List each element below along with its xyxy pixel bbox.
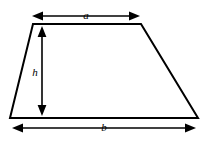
dimension-h: h	[32, 26, 46, 116]
dimension-b-arrowhead-right	[185, 124, 196, 133]
dimension-h-arrowhead-bottom	[38, 105, 47, 116]
dimension-h-label: h	[32, 66, 38, 78]
dimension-a: a	[32, 9, 140, 21]
dimension-b-label: b	[101, 121, 107, 133]
diagram-canvas: a h b	[0, 0, 207, 144]
dimension-b-arrowhead-left	[12, 124, 23, 133]
trapezoid-diagram: a h b	[0, 0, 207, 144]
dimension-a-arrowhead-right	[129, 12, 140, 21]
dimension-h-arrowhead-top	[38, 26, 47, 37]
dimension-a-label: a	[83, 9, 89, 21]
dimension-b: b	[12, 121, 196, 133]
dimension-a-arrowhead-left	[32, 12, 43, 21]
trapezoid-shape	[10, 24, 198, 118]
